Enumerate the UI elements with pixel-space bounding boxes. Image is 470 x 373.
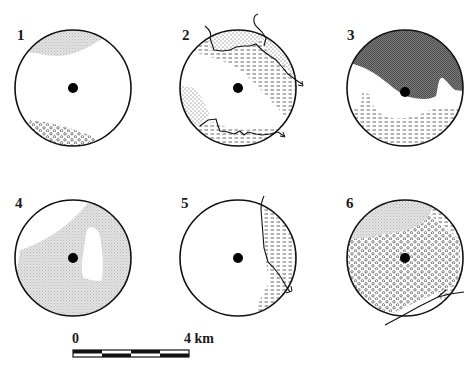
scale-start-label: 0 bbox=[72, 332, 79, 346]
panel-1-open-circle-zone bbox=[20, 120, 100, 150]
panel-4-label: 4 bbox=[15, 196, 23, 211]
panel-6-label: 6 bbox=[346, 196, 354, 211]
panel-6-centre-dot bbox=[400, 253, 410, 263]
scale-bar bbox=[73, 350, 189, 357]
figure: 1 2 3 4 5 6 0 4 km bbox=[0, 0, 470, 373]
panel-6 bbox=[340, 190, 470, 325]
panel-2-centre-dot bbox=[233, 83, 243, 93]
panel-3-hatch-zone bbox=[340, 93, 470, 160]
figure-canvas bbox=[0, 0, 470, 373]
panel-3-centre-dot bbox=[400, 87, 410, 97]
panel-5-label: 5 bbox=[181, 196, 189, 211]
panel-3 bbox=[340, 20, 470, 160]
panel-4 bbox=[10, 198, 140, 320]
panel-1 bbox=[15, 20, 131, 150]
panel-5 bbox=[180, 196, 300, 320]
panel-4-centre-dot bbox=[68, 253, 78, 263]
panel-2 bbox=[178, 14, 303, 150]
panel-1-centre-dot bbox=[68, 83, 78, 93]
panel-2-label: 2 bbox=[182, 28, 190, 43]
panel-1-stipple-zone bbox=[20, 20, 130, 56]
panel-1-label: 1 bbox=[17, 28, 25, 43]
panel-5-centre-dot bbox=[233, 253, 243, 263]
scale-end-label: 4 km bbox=[184, 332, 214, 346]
panel-3-label: 3 bbox=[347, 28, 355, 43]
